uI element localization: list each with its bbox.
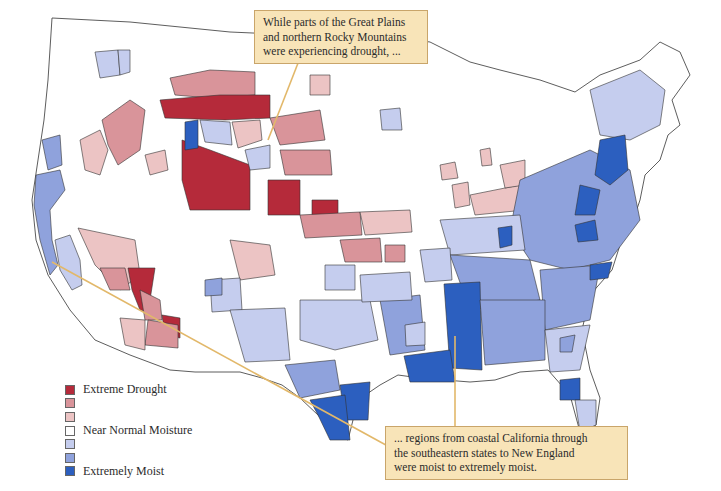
callout-line: and northern Rocky Mountains — [263, 30, 419, 45]
callout-line: were moist to extremely moist. — [394, 460, 619, 475]
callout-line: the southeastern states to New England — [394, 446, 619, 461]
legend: Extreme Drought Near Normal Moisture Ext… — [65, 383, 192, 478]
swatch-extreme-drought — [65, 385, 75, 395]
legend-item-near-normal: Near Normal Moisture — [65, 424, 192, 438]
swatch-mild-drought — [65, 412, 75, 422]
legend-label: Near Normal Moisture — [83, 423, 192, 438]
moist-callout: ... regions from coastal California thro… — [385, 426, 628, 480]
legend-item-extreme-drought: Extreme Drought — [65, 383, 192, 397]
legend-label: Extremely Moist — [83, 464, 164, 479]
callout-line: ... regions from coastal California thro… — [394, 431, 619, 446]
legend-item-mild-drought — [65, 410, 192, 424]
swatch-mild-moist — [65, 439, 75, 449]
legend-item-mild-moist — [65, 437, 192, 451]
callout-line: were experiencing drought, ... — [263, 44, 419, 59]
legend-label: Extreme Drought — [83, 382, 167, 397]
swatch-near-normal — [65, 426, 75, 436]
legend-item-extremely-moist: Extremely Moist — [65, 465, 192, 479]
drought-callout: While parts of the Great Plains and nort… — [254, 10, 428, 64]
swatch-moderate-drought — [65, 398, 75, 408]
callout-line: While parts of the Great Plains — [263, 15, 419, 30]
legend-item-moderate-moist — [65, 451, 192, 465]
legend-item-moderate-drought — [65, 397, 192, 411]
swatch-moderate-moist — [65, 453, 75, 463]
swatch-extremely-moist — [65, 466, 75, 476]
